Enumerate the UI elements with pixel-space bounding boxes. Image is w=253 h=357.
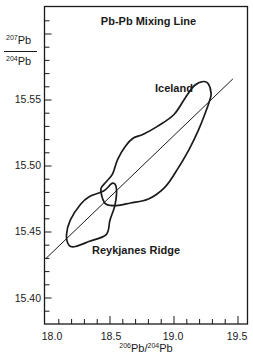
chart-title: Pb-Pb Mixing Line bbox=[0, 15, 253, 27]
annotation-iceland: Iceland bbox=[155, 82, 193, 94]
y-tick-label: 15.45 bbox=[15, 225, 41, 237]
y-tick-label: 15.50 bbox=[15, 159, 41, 171]
x-axis-label: 206Pb/204Pb bbox=[119, 342, 172, 354]
y-axis-label-numerator: 207Pb bbox=[6, 34, 31, 46]
y-axis-ticks bbox=[45, 21, 52, 311]
y-axis-label-denominator: 204Pb bbox=[6, 55, 31, 67]
x-tick-label: 18.5 bbox=[101, 330, 121, 342]
x-axis-ticks bbox=[59, 316, 238, 324]
y-axis-label-fraction-bar bbox=[4, 51, 37, 52]
iceland-field-outline bbox=[101, 81, 211, 205]
y-tick-label: 15.55 bbox=[15, 93, 41, 105]
x-tick-label: 19.0 bbox=[163, 330, 183, 342]
annotation-reykjanes-ridge: Reykjanes Ridge bbox=[92, 244, 180, 256]
y-tick-label: 15.40 bbox=[15, 292, 41, 304]
x-tick-label: 18.0 bbox=[42, 330, 62, 342]
plot-frame bbox=[45, 7, 248, 325]
mixing-line bbox=[46, 79, 233, 259]
series-layer bbox=[46, 79, 233, 259]
x-tick-label: 19.5 bbox=[227, 330, 247, 342]
